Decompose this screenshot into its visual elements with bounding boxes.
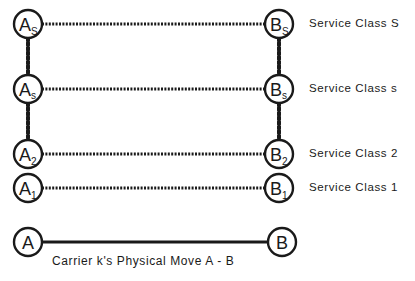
svg-text:A: A [19,15,31,35]
svg-text:2: 2 [31,156,37,167]
svg-text:s: s [31,90,36,101]
node-A-2: A 2 [14,140,42,168]
node-A-S: A S [14,10,42,38]
node-B: B [268,228,296,256]
svg-text:A: A [22,233,34,253]
node-A-1: A 1 [14,174,42,202]
svg-text:A: A [19,145,31,165]
svg-text:A: A [19,80,31,100]
svg-text:B: B [270,80,282,100]
svg-text:2: 2 [282,156,288,167]
svg-text:S: S [31,26,38,37]
label-service-class-S: Service Class S [309,17,399,29]
svg-text:B: B [270,179,282,199]
svg-text:s: s [282,90,287,101]
node-B-S: B S [265,10,293,38]
node-B-2: B 2 [265,140,293,168]
service-class-diagram: A S A s A 2 A 1 A B S B s B 2 B 1 [0,0,415,281]
svg-text:1: 1 [31,190,37,201]
node-A-s: A s [14,75,42,103]
svg-text:B: B [270,15,282,35]
node-A: A [14,228,42,256]
label-service-class-2: Service Class 2 [309,147,398,159]
svg-text:B: B [276,233,288,253]
node-B-s: B s [265,75,293,103]
label-service-class-s: Service Class s [309,82,397,94]
label-service-class-1: Service Class 1 [309,181,398,193]
svg-text:A: A [19,179,31,199]
svg-text:B: B [270,145,282,165]
svg-text:S: S [282,26,289,37]
svg-text:1: 1 [282,190,288,201]
physical-move-caption: Carrier k's Physical Move A - B [52,254,234,268]
node-B-1: B 1 [265,174,293,202]
